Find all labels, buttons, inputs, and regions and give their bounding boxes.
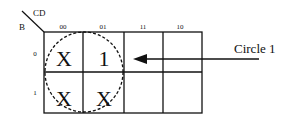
- col-var-label: CD: [33, 8, 46, 18]
- col-header-01: 01: [100, 23, 108, 31]
- col-header-11: 11: [140, 23, 147, 31]
- row-header-0: 0: [33, 50, 37, 58]
- row-header-1: 1: [33, 89, 37, 97]
- col-header-10: 10: [177, 23, 185, 31]
- cell-0-01: 1: [99, 46, 110, 71]
- cell-0-00: X: [56, 46, 72, 71]
- cell-1-00: X: [56, 86, 72, 111]
- row-var-label: B: [19, 22, 25, 32]
- kmap-diagram: CD B 00 01 11 10 0 1 X 1 X X Circle 1: [0, 0, 300, 125]
- circle-label: Circle 1: [234, 41, 276, 56]
- col-header-00: 00: [60, 23, 68, 31]
- cell-1-01: X: [96, 86, 112, 111]
- arrow-head-icon: [133, 54, 147, 64]
